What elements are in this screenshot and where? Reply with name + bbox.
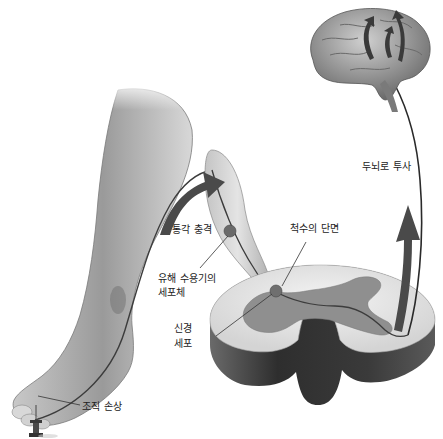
label-tissue-damage: 조직 손상 xyxy=(82,400,122,414)
leg-foot xyxy=(12,80,212,429)
illustration xyxy=(0,0,443,439)
label-nociceptor-line1: 유해 수용기의 xyxy=(158,272,217,286)
nerve-cell-body xyxy=(270,285,282,297)
label-nerve-cell-line1: 신경 xyxy=(174,322,192,336)
nociceptor-cell-body xyxy=(224,225,236,237)
label-nociceptor-line2: 세포체 xyxy=(158,286,186,300)
pain-pathway-diagram: 통각 충격 척수의 단면 유해 수용기의 세포체 신경 세포 조직 손상 두뇌로… xyxy=(0,0,443,439)
label-spinal-cord-section: 척수의 단면 xyxy=(290,222,339,236)
brain xyxy=(311,8,430,112)
label-nerve-cell-line2: 세포 xyxy=(174,337,192,351)
label-pain-impulse: 통각 충격 xyxy=(172,223,212,237)
label-projection-to-brain: 두뇌로 투사 xyxy=(362,160,411,174)
